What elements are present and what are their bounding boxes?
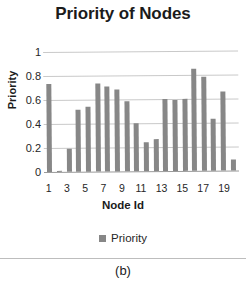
y-tick-label: 0.6 bbox=[26, 94, 41, 106]
bar bbox=[95, 84, 101, 172]
chart-card: Priority of Nodes Priority 10.80.60.40.2… bbox=[0, 0, 246, 257]
bar bbox=[47, 84, 53, 172]
bar bbox=[163, 99, 169, 171]
x-tick-label: 17 bbox=[197, 182, 209, 194]
x-tick-label: 15 bbox=[176, 182, 188, 194]
bar bbox=[144, 142, 149, 171]
y-tick-label: 0.4 bbox=[26, 118, 41, 130]
x-tick-label: 13 bbox=[156, 182, 168, 194]
x-tick-label: 11 bbox=[136, 182, 147, 194]
x-tick-label: 9 bbox=[117, 182, 126, 194]
x-axis-tick-labels: 135791113151719 bbox=[44, 181, 239, 195]
figure-caption: (b) bbox=[0, 263, 246, 278]
bar bbox=[172, 100, 178, 171]
bar bbox=[182, 99, 188, 171]
bar bbox=[85, 107, 91, 172]
x-tick-label: 1 bbox=[44, 182, 53, 194]
bar bbox=[105, 86, 111, 171]
bar bbox=[76, 109, 81, 171]
caption-divider bbox=[0, 258, 246, 259]
y-tick-label: 0.2 bbox=[26, 142, 41, 154]
y-tick-label: 0 bbox=[35, 166, 41, 178]
bar bbox=[201, 77, 207, 171]
figure-panel: Priority of Nodes Priority 10.80.60.40.2… bbox=[0, 0, 246, 286]
bar-slot bbox=[228, 50, 239, 170]
x-tick-label: 7 bbox=[99, 182, 108, 194]
bar bbox=[153, 139, 158, 171]
y-axis-tick-labels: 10.80.60.40.20 bbox=[14, 46, 41, 178]
chart-title: Priority of Nodes bbox=[0, 4, 246, 24]
bar bbox=[57, 171, 62, 172]
bar bbox=[221, 91, 227, 170]
plot-inner bbox=[43, 50, 239, 172]
bar bbox=[191, 69, 197, 171]
x-axis-title: Node Id bbox=[0, 199, 246, 211]
legend-label-priority: Priority bbox=[111, 232, 147, 244]
y-tick-label: 1 bbox=[35, 46, 41, 58]
bar bbox=[124, 102, 130, 172]
bar bbox=[114, 90, 120, 172]
bar bbox=[211, 119, 216, 171]
chart-legend: Priority bbox=[0, 232, 246, 244]
bar-series-priority bbox=[43, 50, 239, 172]
legend-swatch-priority bbox=[99, 235, 106, 242]
plot-area bbox=[44, 52, 239, 172]
x-tick-label: 5 bbox=[81, 182, 90, 194]
y-tick-label: 0.8 bbox=[26, 70, 41, 82]
bar bbox=[66, 149, 71, 172]
x-tick-label: 19 bbox=[218, 182, 230, 194]
bar bbox=[134, 123, 139, 171]
bar bbox=[231, 160, 236, 171]
x-tick-label: 3 bbox=[62, 182, 71, 194]
